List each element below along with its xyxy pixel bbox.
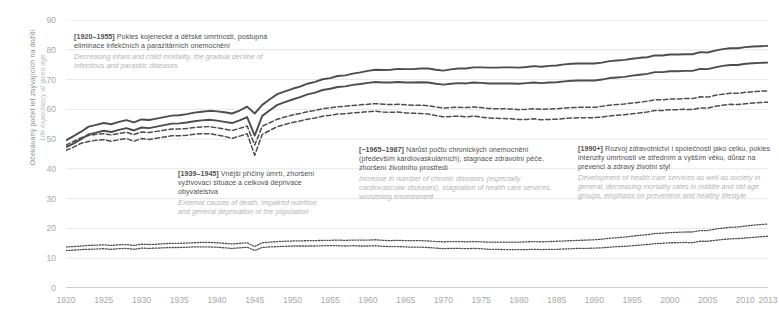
x-tick-2005: 2005 <box>698 296 717 305</box>
y-tick-30: 30 <box>30 194 56 203</box>
annotation-4-en: Development of health care services as w… <box>578 174 774 201</box>
x-tick-1965: 1965 <box>396 296 415 305</box>
y-tick-90: 90 <box>30 16 56 25</box>
chart-root: Očekávaný počet let zbývajících na dožit… <box>0 0 779 322</box>
x-tick-1920: 1920 <box>56 296 75 305</box>
x-tick-1985: 1985 <box>547 296 566 305</box>
x-tick-1990: 1990 <box>585 296 604 305</box>
series-line-5 <box>66 236 768 250</box>
annotation-1990-plus: [1990+] Rozvoj zdravotnictví i společnos… <box>578 145 774 201</box>
annotation-1920-1955: [1920–1955] Pokles kojenecké a dětské úm… <box>74 33 284 71</box>
y-tick-40: 40 <box>30 165 56 174</box>
y-tick-50: 50 <box>30 135 56 144</box>
annotation-1939-1945: [1939–1945] Vnější příčiny úmrtí, zhorše… <box>178 170 318 217</box>
y-tick-0: 0 <box>30 284 56 293</box>
x-tick-1995: 1995 <box>623 296 642 305</box>
x-tick-1925: 1925 <box>94 296 113 305</box>
annotation-1-en: Decreasing infant and child mortality, t… <box>74 53 284 71</box>
annotation-2-en: External causes of death, impaired nutri… <box>178 199 318 217</box>
y-tick-10: 10 <box>30 254 56 263</box>
y-tick-20: 20 <box>30 224 56 233</box>
x-tick-1970: 1970 <box>434 296 453 305</box>
annotation-2-tag: [1939–1945] <box>178 170 219 178</box>
x-tick-1930: 1930 <box>132 296 151 305</box>
x-tick-1975: 1975 <box>472 296 491 305</box>
annotation-1-tag: [1920–1955] <box>74 33 115 41</box>
annotation-3-cz: [~1965–1987] Nárůst počtu chronických on… <box>359 146 559 173</box>
annotation-3-en: Increase in number of chronic diseases (… <box>359 175 559 202</box>
annotation-4-cz-text: Rozvoj zdravotnictví i společnosti jako … <box>578 145 770 171</box>
x-tick-1950: 1950 <box>283 296 302 305</box>
x-tick-1955: 1955 <box>321 296 340 305</box>
annotation-3-tag: [~1965–1987] <box>359 146 404 154</box>
annotation-1965-1987: [~1965–1987] Nárůst počtu chronických on… <box>359 146 559 202</box>
x-tick-1945: 1945 <box>245 296 264 305</box>
x-tick-1960: 1960 <box>358 296 377 305</box>
annotation-4-cz: [1990+] Rozvoj zdravotnictví i společnos… <box>578 145 774 172</box>
y-tick-60: 60 <box>30 105 56 114</box>
x-tick-2010: 2010 <box>736 296 755 305</box>
annotation-4-tag: [1990+] <box>578 145 603 153</box>
x-tick-1935: 1935 <box>170 296 189 305</box>
x-tick-1980: 1980 <box>509 296 528 305</box>
annotation-1-cz: [1920–1955] Pokles kojenecké a dětské úm… <box>74 33 284 51</box>
y-tick-80: 80 <box>30 45 56 54</box>
annotation-2-cz: [1939–1945] Vnější příčiny úmrtí, zhorše… <box>178 170 318 197</box>
x-tick-2013: 2013 <box>758 296 777 305</box>
y-tick-70: 70 <box>30 75 56 84</box>
x-tick-2000: 2000 <box>660 296 679 305</box>
x-tick-1940: 1940 <box>207 296 226 305</box>
series-line-2 <box>66 91 768 145</box>
